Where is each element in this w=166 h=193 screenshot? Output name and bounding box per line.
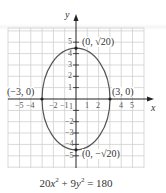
y-tick-label: −4 xyxy=(65,140,74,148)
x-tick-label: 2 xyxy=(96,102,100,110)
x-tick-label: 4 xyxy=(119,102,123,110)
top-vertex-dot xyxy=(74,47,77,50)
top-vertex-label: (0, √20) xyxy=(82,37,114,47)
y-tick-label: −5 xyxy=(65,152,74,160)
x-tick-label: 1 xyxy=(85,102,89,110)
y-axis-arrow-icon xyxy=(74,14,79,21)
y-tick-label: −2 xyxy=(65,118,74,126)
equation-caption: 20x2 + 9y2 = 180 xyxy=(0,176,152,189)
bottom-vertex-label: (0, −√20) xyxy=(82,149,120,159)
x-tick-label: 5 xyxy=(130,102,134,110)
right-vertex-label: (3, 0) xyxy=(112,87,134,97)
y-tick-label: 3 xyxy=(68,61,72,69)
eq-plus: + xyxy=(59,177,71,189)
x-axis-arrow-icon xyxy=(147,97,154,102)
y-tick-label: 1 xyxy=(68,84,72,92)
eq-rhs: = 180 xyxy=(84,177,112,189)
y-tick-label: 2 xyxy=(68,72,72,80)
eq-coef-a: 20 xyxy=(39,177,50,189)
x-tick-label: −5 xyxy=(15,102,24,110)
left-vertex-label: (−3, 0) xyxy=(7,87,34,97)
x-axis-label: x xyxy=(151,103,155,113)
y-tick-label: −3 xyxy=(65,129,74,137)
bottom-vertex-dot xyxy=(74,148,77,151)
y-axis-label: y xyxy=(65,10,69,20)
left-vertex-dot xyxy=(40,97,43,100)
y-tick-label: 4 xyxy=(68,50,72,58)
y-tick-label: 5 xyxy=(68,38,72,46)
x-tick-label: −2 xyxy=(49,102,58,110)
x-tick-label: −4 xyxy=(26,102,35,110)
x-tick-label: −1 xyxy=(60,102,69,110)
y-tick-label: 1 xyxy=(69,103,73,111)
right-vertex-dot xyxy=(108,97,111,100)
